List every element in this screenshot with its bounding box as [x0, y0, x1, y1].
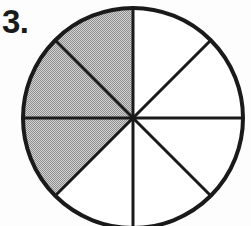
fraction-circle-svg [0, 0, 251, 226]
fraction-circle-figure [0, 0, 251, 226]
worksheet-problem-item: 3. [0, 0, 251, 226]
